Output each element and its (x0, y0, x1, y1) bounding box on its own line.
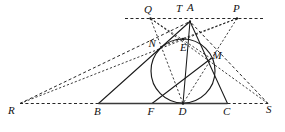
ray-SA (190, 22, 268, 104)
dot-A (189, 20, 191, 22)
point-label-E: E (180, 42, 187, 53)
point-label-B: B (94, 106, 101, 117)
point-label-T: T (176, 3, 182, 14)
geometry-figure: Q T A P N E M R B F D C S (0, 0, 285, 132)
ray-RP (20, 19, 237, 104)
point-label-N: N (149, 38, 156, 49)
point-label-M: M (213, 50, 222, 61)
point-label-R: R (8, 105, 15, 116)
point-label-C: C (223, 106, 230, 117)
figure-canvas (0, 0, 285, 132)
point-label-D: D (179, 106, 187, 117)
point-label-Q: Q (144, 4, 152, 15)
chord-QD (151, 19, 184, 104)
median-AD (183, 22, 190, 104)
dot-Q (149, 17, 151, 19)
ray-RA (20, 22, 190, 104)
point-label-A: A (187, 2, 194, 13)
point-label-F: F (148, 106, 155, 117)
side-AB (99, 22, 191, 104)
point-label-P: P (233, 3, 240, 14)
dot-P (236, 17, 238, 19)
dot-T (182, 38, 185, 41)
chord-PD (183, 19, 237, 104)
side-AC (190, 22, 228, 104)
point-label-S: S (266, 104, 272, 115)
